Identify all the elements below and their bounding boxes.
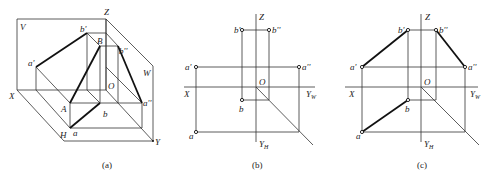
label-X: X (8, 91, 15, 101)
label-b: b (103, 109, 108, 119)
panel-a-pictorial: V Z W X O H Y a' b' B b'' A a b a'' (a) (8, 7, 161, 170)
label-W: W (143, 68, 152, 78)
line-a-b-prime (362, 30, 408, 67)
label-Y-W: YW (470, 89, 481, 100)
label-Z: Z (104, 7, 110, 17)
panel-b-orthographic: Z b' b'' a' a'' O X YW b a YH (b) (183, 12, 317, 170)
label-a: a (73, 128, 78, 138)
label-Y-H: YH (424, 139, 434, 150)
label-O: O (108, 81, 115, 91)
caption-b: (b) (252, 160, 263, 170)
w-plane (106, 19, 153, 141)
label-b-dprime: b'' (119, 46, 128, 56)
line-ab (70, 103, 100, 128)
label-X: X (348, 89, 355, 99)
label-Y-W: YW (306, 89, 317, 100)
label-Y-H: YH (259, 139, 269, 150)
label-a: a (189, 131, 194, 141)
line-a-b-dprime (436, 30, 465, 67)
label-a-dprime: a'' (143, 98, 152, 108)
label-a-prime: a' (28, 58, 36, 68)
label-b-prime: b' (398, 25, 406, 35)
label-H: H (59, 130, 67, 140)
panel-c-orthographic: Z b' b'' a' a'' O X YW b a YH (c) (345, 12, 481, 170)
label-b: b (405, 104, 410, 114)
label-Z: Z (259, 12, 265, 22)
label-b: b (239, 104, 244, 114)
label-a-prime: a' (185, 62, 193, 72)
label-b-prime: b' (234, 25, 242, 35)
line-a-b-prime (36, 33, 87, 67)
label-b-prime: b' (80, 24, 88, 34)
label-a-prime: a' (350, 62, 358, 72)
caption-a: (a) (102, 160, 112, 170)
label-b-dprime: b'' (439, 25, 448, 35)
label-B: B (97, 36, 103, 46)
miter-line (256, 87, 313, 145)
label-V: V (20, 22, 27, 32)
label-a-dprime: a'' (468, 62, 477, 72)
line-ab (362, 100, 408, 132)
caption-c: (c) (417, 160, 427, 170)
label-a: a (356, 131, 361, 141)
projection-figure: V Z W X O H Y a' b' B b'' A a b a'' (a) … (0, 0, 484, 187)
v-plane (17, 19, 106, 90)
label-b-dprime: b'' (272, 25, 281, 35)
label-A: A (60, 104, 67, 114)
label-O: O (424, 77, 431, 87)
label-Z: Z (425, 12, 431, 22)
label-O: O (259, 77, 266, 87)
line-AB (70, 46, 100, 103)
label-a-dprime: a'' (302, 62, 311, 72)
label-Y: Y (155, 137, 161, 147)
label-X: X (183, 89, 190, 99)
